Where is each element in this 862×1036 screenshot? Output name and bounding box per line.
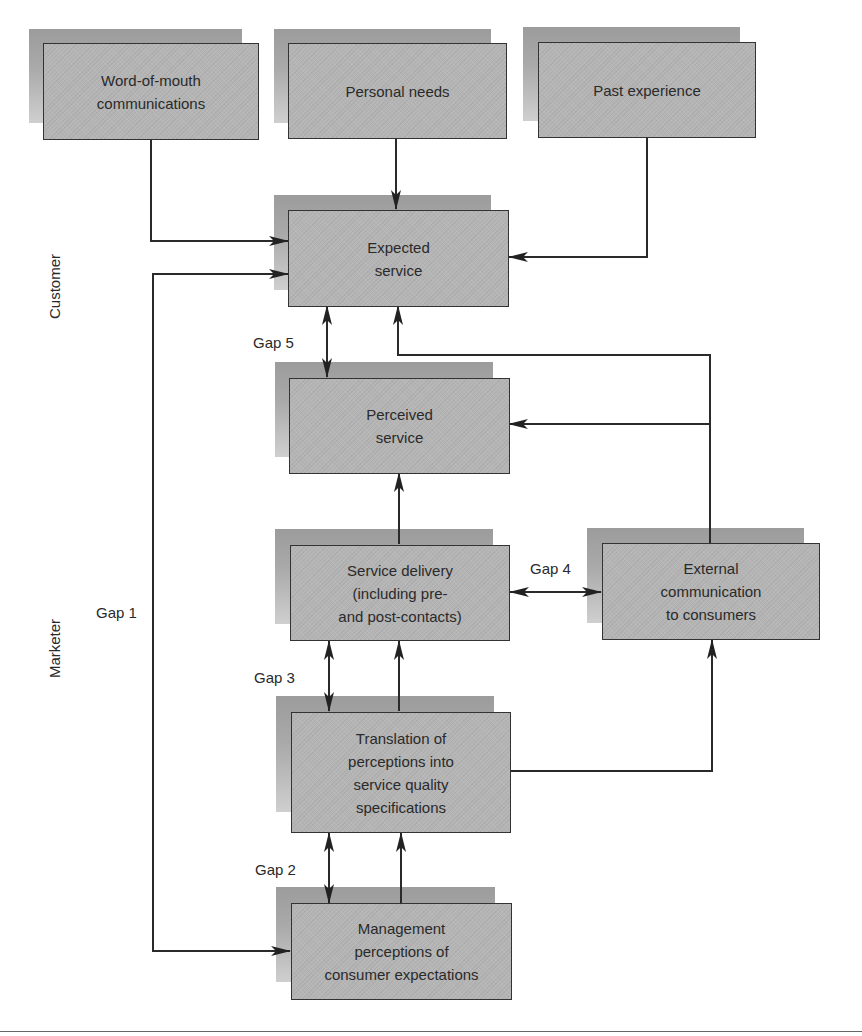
node-expected-service: Expected service <box>288 210 509 307</box>
node-external-communication: External communication to consumers <box>602 543 820 640</box>
gap-1-label: Gap 1 <box>96 604 137 621</box>
gap-5-label: Gap 5 <box>253 334 294 351</box>
marketer-side-label: Marketer <box>46 619 63 678</box>
node-management-perceptions: Management perceptions of consumer expec… <box>291 903 512 1000</box>
bottom-divider <box>0 1031 862 1032</box>
connector-lines <box>0 0 862 1036</box>
gap-2-label: Gap 2 <box>255 861 296 878</box>
customer-side-label: Customer <box>46 254 63 319</box>
node-translation: Translation of perceptions into service … <box>291 712 511 833</box>
gap-3-label: Gap 3 <box>254 669 295 686</box>
node-personal-needs: Personal needs <box>288 43 507 139</box>
node-perceived-service: Perceived service <box>289 378 510 474</box>
gap-4-label: Gap 4 <box>530 560 571 577</box>
node-past-experience: Past experience <box>538 42 756 138</box>
node-service-delivery: Service delivery (including pre- and pos… <box>290 545 510 641</box>
node-word-of-mouth: Word-of-mouth communications <box>43 43 259 140</box>
service-quality-gap-model: Word-of-mouth communications Personal ne… <box>0 0 862 1036</box>
